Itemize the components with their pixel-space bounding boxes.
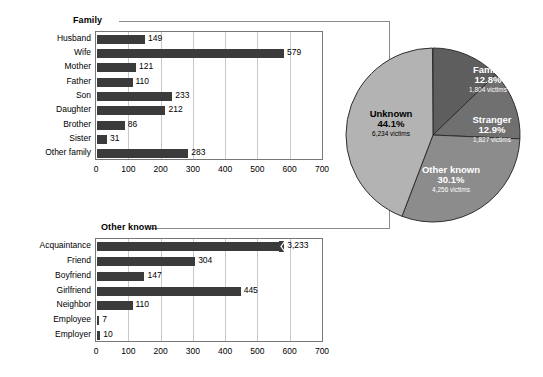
bar-value-label: 86 xyxy=(128,120,137,129)
bar-category-label: Father xyxy=(66,77,91,86)
x-axis-tick-label: 400 xyxy=(218,164,232,174)
x-axis-tick-label: 300 xyxy=(186,346,200,356)
bar-chart-other-known: Acquaintance3,233Friend304Boyfriend147Gi… xyxy=(18,238,323,366)
bar-category-label: Neighbor xyxy=(57,300,92,309)
bar-category-label: Friend xyxy=(67,256,91,265)
bar-value-label: 212 xyxy=(168,105,182,114)
x-axis-tick-label: 0 xyxy=(94,164,99,174)
bar-category-label: Employee xyxy=(53,315,91,324)
x-axis-tick-label: 700 xyxy=(315,346,329,356)
panel-title-other-known: Other known xyxy=(101,222,157,232)
bar-value-label: 233 xyxy=(175,91,189,100)
x-axis-tick-label: 100 xyxy=(121,346,135,356)
x-axis-tick-label: 500 xyxy=(250,164,264,174)
bar-category-label: Other family xyxy=(45,148,91,157)
bar-value-label: 110 xyxy=(136,77,150,86)
bar-category-label: Girlfriend xyxy=(57,286,91,295)
bar-category-label: Mother xyxy=(65,62,91,71)
bar-category-label: Acquaintance xyxy=(39,241,91,250)
bar xyxy=(97,242,284,251)
gridline xyxy=(290,239,291,341)
bar xyxy=(97,257,195,266)
bar-value-label: 121 xyxy=(139,62,153,71)
bar-value-label: 579 xyxy=(287,48,301,57)
pie-chart-relationship: Family12.8%1,804 victimsStranger12.9%1,8… xyxy=(345,47,521,223)
bar-category-label: Boyfriend xyxy=(55,271,91,280)
bar-category-label: Daughter xyxy=(56,105,91,114)
chart-figure: Family Husband149Wife579Mother121Father1… xyxy=(0,0,543,377)
x-axis-tick-label: 200 xyxy=(153,164,167,174)
bar xyxy=(97,121,125,130)
pie-svg xyxy=(345,47,521,223)
bar xyxy=(97,272,144,281)
bar-value-label: 445 xyxy=(244,286,258,295)
bar-category-label: Son xyxy=(76,91,91,100)
bar-value-label: 3,233 xyxy=(287,241,308,250)
bar xyxy=(97,78,133,87)
bar-category-label: Husband xyxy=(57,34,91,43)
bar-value-label: 10 xyxy=(103,330,112,339)
bar xyxy=(97,316,99,325)
bar-value-label: 149 xyxy=(148,34,162,43)
bar-value-label: 110 xyxy=(136,300,150,309)
x-axis-tick-label: 600 xyxy=(283,164,297,174)
bar-value-label: 147 xyxy=(147,271,161,280)
bar xyxy=(97,63,136,72)
bar xyxy=(97,92,172,101)
x-axis-tick-label: 300 xyxy=(186,164,200,174)
x-axis-tick-label: 200 xyxy=(153,346,167,356)
bar-category-label: Brother xyxy=(63,120,91,129)
bar xyxy=(97,35,145,44)
bar-value-label: 31 xyxy=(110,134,119,143)
bar-category-label: Employer xyxy=(55,330,91,339)
bar xyxy=(97,301,133,310)
bar xyxy=(97,49,284,58)
leader-line-top xyxy=(119,21,389,22)
panel-title-family: Family xyxy=(73,15,102,25)
x-axis-tick-label: 700 xyxy=(315,164,329,174)
bar xyxy=(97,106,165,115)
bar xyxy=(97,287,241,296)
x-axis-tick-label: 0 xyxy=(94,346,99,356)
x-axis-tick-label: 600 xyxy=(283,346,297,356)
bar xyxy=(97,135,107,144)
bar-value-label: 7 xyxy=(102,315,107,324)
bar-value-label: 304 xyxy=(198,256,212,265)
bar xyxy=(97,149,188,158)
bar-value-label: 283 xyxy=(191,148,205,157)
bar-chart-family: Husband149Wife579Mother121Father110Son23… xyxy=(18,31,323,183)
x-axis-tick-label: 100 xyxy=(121,164,135,174)
bar xyxy=(97,331,100,340)
x-axis-tick-label: 500 xyxy=(250,346,264,356)
x-axis-tick-label: 400 xyxy=(218,346,232,356)
bar-category-label: Sister xyxy=(69,134,91,143)
leader-line-bottom xyxy=(151,228,389,229)
bar-category-label: Wife xyxy=(74,48,91,57)
plot-frame-other-known xyxy=(95,238,323,342)
